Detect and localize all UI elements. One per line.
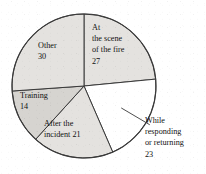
pie-chart: Atthe sceneof the fire27 Whileresponding… xyxy=(0,0,206,174)
pie-chart-svg: Atthe sceneof the fire27 Whileresponding… xyxy=(0,0,206,174)
pie-slices xyxy=(12,14,156,158)
pie-slice-other xyxy=(12,14,84,91)
slice-label-while-responding-or-returning: Whilerespondingor returning23 xyxy=(145,116,184,159)
